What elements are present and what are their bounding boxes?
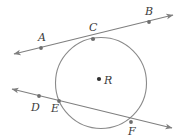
center-label-r: R [103,74,112,87]
point-label-c: C [89,21,98,34]
point-label-a: A [37,31,46,44]
point-a-dot [39,46,43,50]
point-label-d: D [30,101,40,114]
point-label-f: F [127,125,136,138]
geometry-figure: A B C D E F R [0,0,187,139]
point-b-dot [147,20,151,24]
circle-r-outline [56,38,147,129]
geometry-canvas: A B C D E F R [0,0,187,139]
center-r-dot [97,77,101,81]
point-f-dot [129,120,133,124]
point-label-e: E [50,102,59,115]
point-c-dot [91,37,95,41]
point-label-b: B [144,5,153,18]
point-d-dot [37,94,41,98]
